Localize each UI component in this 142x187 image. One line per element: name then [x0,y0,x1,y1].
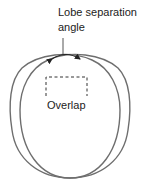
right-lobe-outline [20,54,130,178]
lobe-separation-diagram: Lobe separation angle Overlap [0,0,142,187]
left-lobe-outline [10,54,120,178]
title-line-2: angle [58,21,85,33]
title-line-1: Lobe separation [58,6,137,18]
overlap-region-outline [46,77,87,96]
overlap-label: Overlap [47,99,86,111]
